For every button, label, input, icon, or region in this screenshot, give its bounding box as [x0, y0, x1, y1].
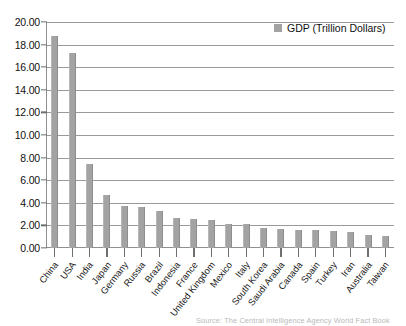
x-label-slot: Germany — [116, 258, 133, 324]
y-tick-label: 12.00 — [0, 106, 40, 118]
x-tick-slot — [98, 248, 115, 258]
x-axis-label: China — [38, 260, 61, 285]
bar — [312, 230, 319, 248]
bar-slot — [255, 22, 272, 248]
x-tick-mark — [385, 248, 386, 257]
x-label-slot: Russia — [133, 258, 150, 324]
legend-swatch-gdp — [274, 24, 282, 32]
x-tick-slot — [168, 248, 185, 258]
x-label-slot: USA — [63, 258, 80, 324]
bar — [260, 228, 267, 248]
bar-slot — [342, 22, 359, 248]
y-tick-label: 2.00 — [0, 219, 40, 231]
x-label-slot: United Kingdom — [203, 258, 220, 324]
x-tick-slot — [185, 248, 202, 258]
x-tick-slot — [150, 248, 167, 258]
x-tick-mark — [54, 248, 55, 257]
y-tick-label: 20.00 — [0, 16, 40, 28]
x-tick-mark — [263, 248, 264, 257]
bar — [295, 230, 302, 248]
x-tick-slot — [255, 248, 272, 258]
x-tick-slot — [325, 248, 342, 258]
x-tick-slot — [237, 248, 254, 258]
bar-slot — [133, 22, 150, 248]
y-tick-label: 6.00 — [0, 174, 40, 186]
bars-layer — [46, 22, 394, 248]
bar-slot — [290, 22, 307, 248]
bar — [69, 53, 76, 248]
x-tick-slot — [81, 248, 98, 258]
y-tick-label: 10.00 — [0, 129, 40, 141]
x-tick-mark — [124, 248, 125, 257]
bar-slot — [377, 22, 394, 248]
x-tick-slot — [133, 248, 150, 258]
x-tick-slot — [377, 248, 394, 258]
bar — [382, 236, 389, 248]
y-tick-label: 8.00 — [0, 152, 40, 164]
bar — [86, 164, 93, 248]
x-tick-mark — [228, 248, 229, 257]
x-tick-slot — [290, 248, 307, 258]
bar-slot — [359, 22, 376, 248]
x-tick-mark — [298, 248, 299, 257]
x-axis-labels: ChinaUSAIndiaJapanGermanyRussiaBrazilInd… — [46, 258, 394, 324]
bar-slot — [168, 22, 185, 248]
x-tick-mark — [89, 248, 90, 257]
x-axis-ticks — [46, 248, 394, 258]
x-label-slot: Canada — [290, 258, 307, 324]
bar-slot — [185, 22, 202, 248]
x-tick-mark — [211, 248, 212, 257]
bar-slot — [307, 22, 324, 248]
bar — [208, 220, 215, 248]
bar — [190, 219, 197, 248]
gdp-bar-chart: 0.002.004.006.008.0010.0012.0014.0016.00… — [0, 0, 406, 326]
x-tick-mark — [333, 248, 334, 257]
bar — [103, 195, 110, 248]
bar-slot — [203, 22, 220, 248]
x-tick-mark — [350, 248, 351, 257]
x-label-slot: Australia — [359, 258, 376, 324]
x-tick-mark — [367, 248, 368, 257]
x-tick-mark — [176, 248, 177, 257]
bar-slot — [272, 22, 289, 248]
source-note: Source: The Central Intelligence Agency … — [196, 316, 390, 325]
bar — [277, 229, 284, 248]
x-tick-slot — [307, 248, 324, 258]
bar-slot — [325, 22, 342, 248]
bar — [173, 218, 180, 248]
x-tick-slot — [359, 248, 376, 258]
bar — [330, 231, 337, 249]
x-label-slot: Saudi Arabia — [272, 258, 289, 324]
x-tick-slot — [203, 248, 220, 258]
bar-slot — [63, 22, 80, 248]
bar-slot — [98, 22, 115, 248]
legend-label-gdp: GDP (Trillion Dollars) — [287, 22, 386, 34]
x-tick-slot — [220, 248, 237, 258]
y-tick-label: 0.00 — [0, 242, 40, 254]
bar-slot — [116, 22, 133, 248]
y-tick-label: 4.00 — [0, 197, 40, 209]
bar-slot — [81, 22, 98, 248]
x-label-slot: India — [81, 258, 98, 324]
bar — [225, 224, 232, 248]
x-label-slot: Spain — [307, 258, 324, 324]
bar-slot — [237, 22, 254, 248]
x-tick-mark — [193, 248, 194, 257]
bar — [347, 232, 354, 248]
x-tick-slot — [342, 248, 359, 258]
bar — [243, 224, 250, 248]
bar-slot — [46, 22, 63, 248]
x-tick-mark — [280, 248, 281, 257]
y-tick-label: 14.00 — [0, 84, 40, 96]
bar — [51, 36, 58, 248]
x-tick-mark — [72, 248, 73, 257]
x-tick-mark — [246, 248, 247, 257]
x-label-slot: Turkey — [325, 258, 342, 324]
x-tick-slot — [272, 248, 289, 258]
bar-slot — [220, 22, 237, 248]
x-tick-slot — [63, 248, 80, 258]
x-label-slot: China — [46, 258, 63, 324]
x-tick-mark — [106, 248, 107, 257]
bar — [156, 211, 163, 248]
bar-slot — [150, 22, 167, 248]
